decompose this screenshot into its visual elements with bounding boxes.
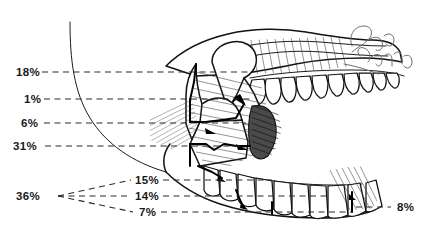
diagram-canvas: 18% 1% 6% 31% 36% 15% 14% 7% 8% — [0, 0, 430, 238]
label-body: 15% — [135, 174, 159, 186]
label-alveolar: 8% — [397, 201, 414, 213]
label-symphysis: 7% — [139, 206, 156, 218]
label-coronoid: 1% — [24, 93, 41, 105]
label-condyle: 18% — [16, 66, 40, 78]
label-parasymph: 14% — [135, 190, 159, 202]
label-ramus: 6% — [21, 117, 38, 129]
fan-branch-body — [58, 180, 131, 196]
lower-teeth-row — [204, 166, 382, 219]
maxilla-group — [166, 29, 402, 76]
fan-branch-symphysis — [58, 196, 133, 212]
label-angle: 31% — [13, 140, 37, 152]
mandible-illustration: 18% 1% 6% 31% 36% 15% 14% 7% 8% — [0, 0, 430, 238]
label-body-group: 36% — [16, 190, 40, 202]
